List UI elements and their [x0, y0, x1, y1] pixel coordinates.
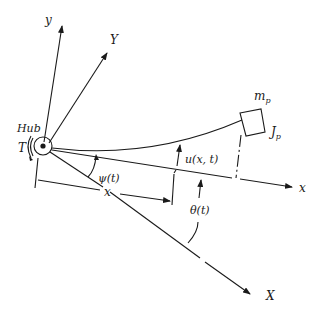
theta-leader: [188, 222, 198, 243]
x-dimension-left: [38, 180, 100, 190]
Y-axis-label: Y: [110, 33, 119, 47]
psi-label: ψ(t): [98, 172, 120, 185]
X-axis-arrow: [205, 262, 250, 294]
hub-label: Hub: [16, 122, 41, 135]
x-axis-label: x: [299, 181, 306, 195]
y-axis: [44, 26, 62, 142]
deflection-arrow-up: [177, 145, 180, 166]
flexible-link-diagram: y Y Hub T ψ(t) u(x, t) x θ(t) x X mp Jp: [0, 0, 319, 317]
deflection-tick: [174, 170, 176, 173]
hub-icon: [28, 136, 52, 161]
X-axis-label: X: [265, 289, 275, 303]
payload-mass-box: [240, 109, 265, 136]
x-dimension-left-tick: [35, 158, 38, 188]
torque-label: T: [18, 141, 27, 155]
inertia-label: Jp: [268, 125, 281, 141]
position-label: x: [104, 185, 111, 199]
y-axis-label: y: [44, 13, 52, 27]
theta-arrow: [199, 180, 201, 198]
x-dimension-right-tick: [172, 174, 174, 205]
flexible-beam: [52, 120, 242, 151]
mass-label: mp: [254, 89, 271, 105]
payload-projection: [236, 135, 241, 178]
theta-label: θ(t): [190, 204, 210, 217]
X-axis-mid: [110, 192, 200, 258]
x-dimension-right: [120, 194, 170, 201]
deflection-label: u(x, t): [185, 153, 218, 166]
x-axis-arrow: [240, 179, 292, 187]
Y-axis: [49, 53, 107, 143]
